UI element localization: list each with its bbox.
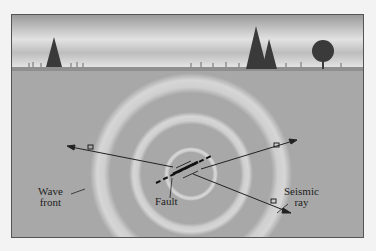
wave-front-label: Wave front (38, 186, 63, 208)
ground-line (12, 67, 363, 71)
sky (12, 15, 363, 69)
seismic-ray-label: Seismic ray (284, 186, 319, 208)
tree-icon (312, 40, 334, 62)
fault-label: Fault (155, 196, 178, 207)
